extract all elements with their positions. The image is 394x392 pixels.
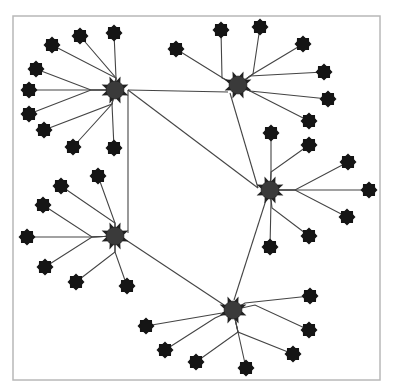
leaf-node — [262, 239, 279, 256]
leaf-node — [21, 82, 38, 99]
leaf-edge — [238, 72, 324, 85]
leaf-node — [21, 106, 38, 123]
leaf-node — [106, 25, 123, 42]
leaf-node — [213, 22, 230, 39]
leaf-edge — [165, 310, 233, 350]
leaf-edge — [146, 310, 233, 326]
leaf-edge — [61, 186, 115, 236]
leaf-node — [168, 41, 185, 58]
leaf-edge — [233, 305, 309, 330]
leaf-node — [301, 322, 318, 339]
leaf-node — [90, 168, 107, 185]
leaf-node — [252, 19, 269, 36]
leaf-node — [119, 278, 136, 295]
leaf-node — [44, 37, 61, 54]
edges-layer — [27, 27, 369, 368]
leaf-node — [340, 154, 357, 171]
leaf-edge — [238, 44, 303, 85]
leaf-node — [65, 139, 82, 156]
leaf-node — [72, 28, 89, 45]
leaf-node — [106, 140, 123, 157]
hub-node-h2 — [225, 72, 252, 99]
leaf-edge — [29, 90, 115, 114]
leaf-node — [320, 91, 337, 108]
network-diagram — [0, 0, 394, 392]
hub-node-h5 — [220, 297, 247, 324]
leaf-node — [339, 209, 356, 226]
leaf-node — [28, 61, 45, 78]
leaf-node — [301, 137, 318, 154]
leaf-node — [188, 354, 205, 371]
leaf-node — [263, 125, 280, 142]
leaf-edge — [36, 69, 115, 90]
leaf-node — [157, 342, 174, 359]
leaf-node — [68, 274, 85, 291]
hub-link-h2-h3 — [230, 93, 258, 188]
leaf-edge — [44, 90, 115, 130]
leaf-node — [285, 346, 302, 363]
leaf-node — [295, 36, 312, 53]
leaf-node — [37, 259, 54, 276]
leaf-node — [301, 228, 318, 245]
hub-link-h1-h2 — [128, 90, 228, 92]
leaf-node — [53, 178, 70, 195]
leaf-node — [316, 64, 333, 81]
leaf-node — [36, 122, 53, 139]
leaf-node — [138, 318, 155, 335]
leaf-nodes-layer — [19, 19, 378, 377]
hub-link-h3-h5 — [234, 200, 266, 300]
hub-link-h4-h5 — [126, 240, 224, 305]
leaf-edge — [176, 49, 238, 85]
hub-link-h1-h3 — [128, 90, 258, 188]
leaf-edge — [73, 90, 115, 147]
leaf-node — [238, 360, 255, 377]
leaf-node — [19, 229, 36, 246]
leaf-node — [361, 182, 378, 199]
leaf-node — [302, 288, 319, 305]
leaf-node — [35, 197, 52, 214]
leaf-edge — [233, 310, 293, 354]
leaf-node — [301, 113, 318, 130]
